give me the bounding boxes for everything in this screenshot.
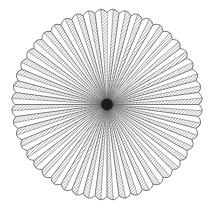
radial-fan-diagram <box>0 0 213 212</box>
center-hub <box>101 99 113 111</box>
